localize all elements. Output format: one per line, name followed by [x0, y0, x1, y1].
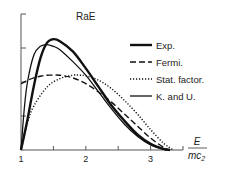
- series-line-exp: [21, 39, 170, 150]
- x-tick-label: 3: [148, 154, 153, 164]
- chart: 123 Exp.Fermi.Stat. factor.K. and U. RaE…: [0, 0, 226, 176]
- legend-label: Stat. factor.: [156, 74, 204, 85]
- chart-title: RaE: [76, 11, 96, 22]
- series-line-k-and-u: [21, 45, 170, 150]
- x-tick-label: 2: [83, 154, 88, 164]
- legend-label: Fermi.: [156, 57, 183, 68]
- x-axis-label-numerator: E: [194, 136, 201, 147]
- x-axis-label-den-main: mc: [188, 150, 201, 161]
- x-axis-label-denominator: mc2: [188, 150, 205, 162]
- legend-label: K. and U.: [156, 91, 196, 102]
- legend-label: Exp.: [156, 40, 175, 51]
- series-line-fermi: [21, 75, 170, 150]
- legend: Exp.Fermi.Stat. factor.K. and U.: [130, 40, 204, 102]
- curves: [21, 39, 173, 150]
- x-axis-label-den-sub: 2: [200, 155, 205, 162]
- x-tick-label: 1: [18, 154, 23, 164]
